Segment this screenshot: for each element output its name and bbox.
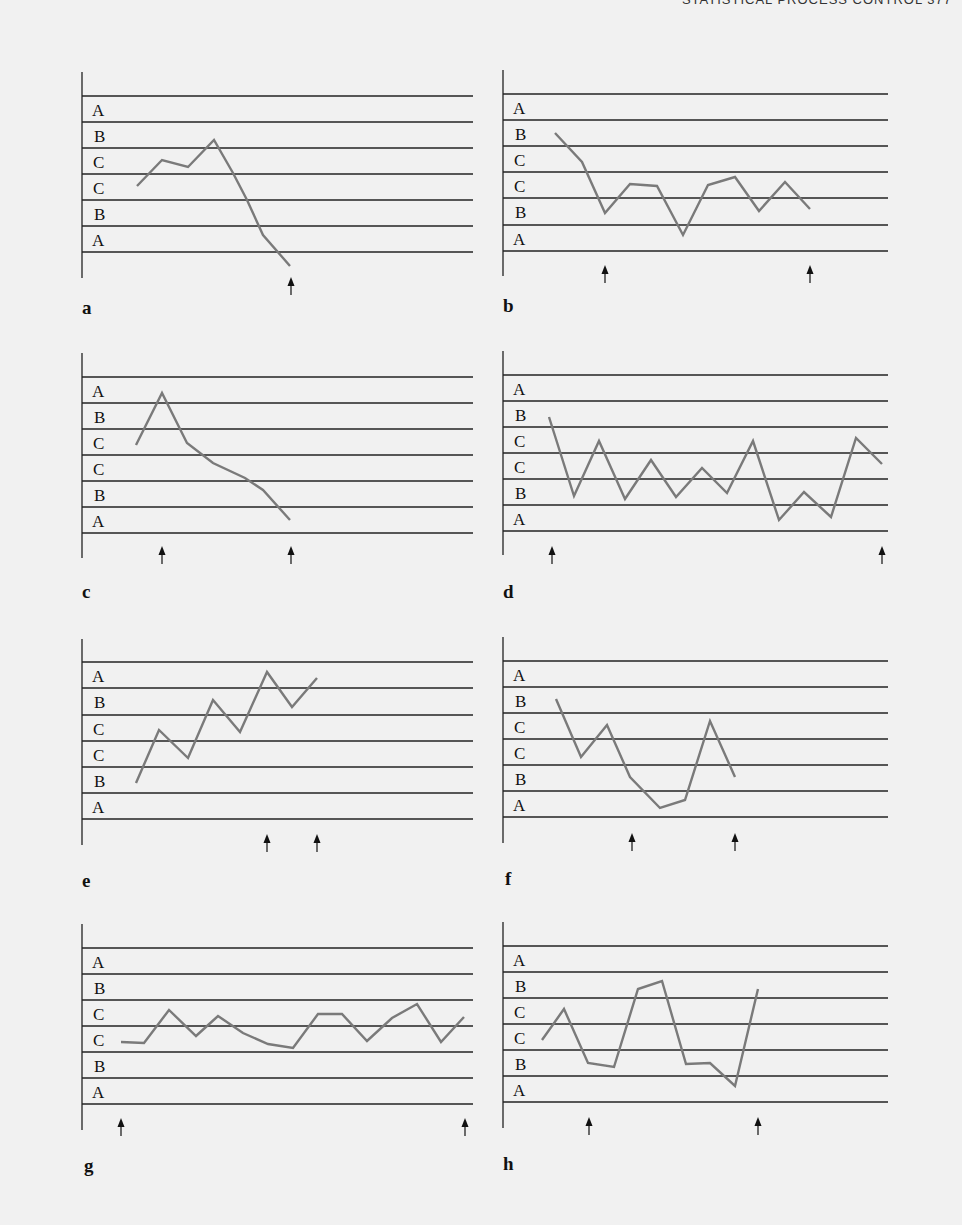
zone-label: B <box>94 979 105 998</box>
zone-boundaries <box>503 94 888 251</box>
zone-label: B <box>515 203 526 222</box>
zone-label: B <box>94 408 105 427</box>
zone-label: A <box>513 951 526 970</box>
zone-label: B <box>94 486 105 505</box>
panel-label: f <box>505 868 512 889</box>
zone-label: C <box>93 179 104 198</box>
panel-label: e <box>82 870 90 891</box>
arrow-up-icon <box>118 1118 125 1136</box>
zone-boundaries <box>82 96 473 252</box>
zone-label: A <box>513 99 526 118</box>
zone-label: A <box>92 1083 105 1102</box>
data-series <box>555 133 810 235</box>
arrow-up-icon <box>462 1118 469 1136</box>
zone-label: C <box>514 1003 525 1022</box>
zone-label: C <box>93 746 104 765</box>
zone-label: C <box>514 177 525 196</box>
zone-label: C <box>514 718 525 737</box>
panel-d: A B C C B A d <box>503 351 888 602</box>
panel-label: a <box>82 297 92 318</box>
panel-a: A B C C B A a <box>82 72 473 318</box>
zone-label: C <box>514 1029 525 1048</box>
zone-label: B <box>515 692 526 711</box>
zone-label: A <box>513 510 526 529</box>
arrow-up-icon <box>264 834 271 852</box>
zone-label: B <box>94 772 105 791</box>
arrow-up-icon <box>159 546 166 564</box>
zone-label: A <box>513 1081 526 1100</box>
arrow-up-icon <box>549 546 556 564</box>
arrow-up-icon <box>288 546 295 564</box>
panel-h: A B C C B A h <box>503 922 888 1174</box>
data-series <box>556 699 735 808</box>
zone-label: B <box>515 977 526 996</box>
zone-label: C <box>93 720 104 739</box>
zone-label: C <box>514 432 525 451</box>
panel-c: A B C C B A c <box>82 353 473 602</box>
zone-boundaries <box>82 377 473 533</box>
zone-label: B <box>94 127 105 146</box>
arrow-up-icon <box>288 277 295 295</box>
arrow-up-icon <box>602 265 609 283</box>
zone-label: B <box>515 770 526 789</box>
zone-label: B <box>94 693 105 712</box>
zone-boundaries <box>82 948 473 1104</box>
zone-label: C <box>514 744 525 763</box>
panel-label: b <box>503 295 514 316</box>
zone-label: A <box>513 230 526 249</box>
zone-label: A <box>513 796 526 815</box>
zone-label: A <box>92 101 105 120</box>
zone-label: A <box>92 231 105 250</box>
zone-label: A <box>92 798 105 817</box>
arrow-up-icon <box>755 1117 762 1135</box>
zone-label: B <box>515 406 526 425</box>
arrow-up-icon <box>879 546 886 564</box>
zone-boundaries <box>503 946 888 1102</box>
zone-label: A <box>513 380 526 399</box>
panel-f: A B C C B A f <box>503 637 888 889</box>
zone-label: C <box>514 458 525 477</box>
zone-label: A <box>92 953 105 972</box>
zone-label: C <box>93 153 104 172</box>
panel-g: A B C C B A g <box>82 924 473 1176</box>
zone-label: A <box>92 382 105 401</box>
control-chart-figure: A B C C B A a A B C C B A <box>0 0 962 1225</box>
zone-label: A <box>513 666 526 685</box>
zone-label: C <box>93 1031 104 1050</box>
panel-e: A B C C B A e <box>82 639 473 891</box>
arrow-up-icon <box>314 834 321 852</box>
zone-label: B <box>94 1057 105 1076</box>
panel-label: d <box>503 581 514 602</box>
zone-label: C <box>93 460 104 479</box>
panel-label: c <box>82 581 90 602</box>
data-series <box>137 140 290 266</box>
arrow-up-icon <box>807 265 814 283</box>
zone-label: C <box>514 151 525 170</box>
panel-label: g <box>84 1155 94 1176</box>
zone-label: C <box>93 1005 104 1024</box>
zone-label: C <box>93 434 104 453</box>
zone-label: A <box>92 512 105 531</box>
data-series <box>136 393 290 520</box>
arrow-up-icon <box>732 833 739 851</box>
panel-label: h <box>503 1153 514 1174</box>
zone-label: A <box>92 667 105 686</box>
data-series <box>542 981 758 1086</box>
zone-label: B <box>515 1055 526 1074</box>
zone-label: B <box>515 484 526 503</box>
zone-label: B <box>515 125 526 144</box>
zone-label: B <box>94 205 105 224</box>
zone-boundaries <box>503 661 888 817</box>
arrow-up-icon <box>629 833 636 851</box>
arrow-up-icon <box>586 1117 593 1135</box>
panel-b: A B C C B A b <box>503 70 888 316</box>
